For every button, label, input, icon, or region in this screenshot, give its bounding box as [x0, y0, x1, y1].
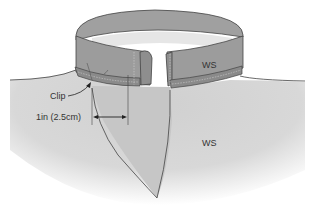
collar-ws-label: WS [202, 60, 217, 70]
body-ws-label: WS [202, 138, 217, 148]
measurement-label: 1in (2.5cm) [36, 112, 81, 122]
clip-label: Clip [50, 91, 66, 101]
collar-diagram: Clip 1in (2.5cm) WS WS [0, 0, 309, 211]
collar-left-end [140, 51, 152, 85]
